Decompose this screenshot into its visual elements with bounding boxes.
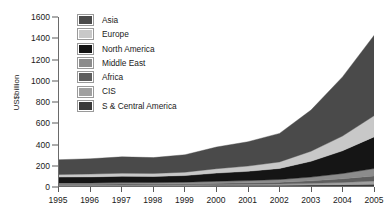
x-axis-tick-mark [153, 187, 154, 192]
x-axis-tick-mark [342, 187, 343, 192]
legend-item: Europe [78, 27, 177, 41]
y-axis-tick-label: 1000 [31, 76, 50, 86]
y-axis-tick-label: 1200 [31, 55, 50, 65]
legend-item-label: North America [102, 45, 155, 53]
x-axis-tick-label: 2001 [238, 195, 257, 205]
x-axis-tick-mark [184, 187, 185, 192]
legend-swatch-icon [78, 101, 93, 111]
legend-item: Middle East [78, 56, 177, 70]
x-axis-tick-mark [121, 187, 122, 192]
y-axis-tick-label: 400 [36, 140, 50, 150]
x-axis-tick-label: 2003 [301, 195, 320, 205]
legend-swatch-icon [78, 87, 93, 97]
x-axis-tick-mark [279, 187, 280, 192]
legend-item: North America [78, 42, 177, 56]
x-axis-tick-label: 1998 [143, 195, 162, 205]
x-axis-tick-mark [248, 187, 249, 192]
x-axis-tick-label: 1999 [175, 195, 194, 205]
x-axis-tick-mark [374, 187, 375, 192]
x-axis-tick-mark [216, 187, 217, 192]
chart-legend: AsiaEuropeNorth AmericaMiddle EastAfrica… [78, 13, 177, 113]
y-axis-tick-label: 800 [36, 97, 50, 107]
x-axis-tick-label: 1996 [80, 195, 99, 205]
y-axis-tick-label: 1400 [31, 33, 50, 43]
legend-swatch-icon [78, 72, 93, 82]
x-axis-ticks: 1995199619971998199920002001200220032004… [58, 187, 374, 219]
legend-item-label: CIS [102, 87, 116, 95]
legend-swatch-icon [78, 29, 93, 39]
y-axis-tick-label: 1600 [31, 12, 50, 22]
x-axis-tick-label: 2000 [207, 195, 226, 205]
legend-item: Africa [78, 70, 177, 84]
x-axis-tick-mark [58, 187, 59, 192]
legend-item-label: Asia [102, 16, 118, 24]
x-axis-tick-label: 2004 [333, 195, 352, 205]
x-axis-tick-label: 2002 [270, 195, 289, 205]
legend-item-label: Africa [102, 73, 123, 81]
legend-item-label: S & Central America [102, 102, 177, 110]
x-axis-tick-label: 1995 [49, 195, 68, 205]
y-axis-tick-label: 0 [45, 182, 50, 192]
stacked-area-chart: US$billion 02004006008001000120014001600… [0, 0, 389, 219]
x-axis-tick-label: 1997 [112, 195, 131, 205]
legend-swatch-icon [78, 44, 93, 54]
y-axis-tick-label: 600 [36, 118, 50, 128]
y-axis-tick-label: 200 [36, 161, 50, 171]
legend-item-label: Europe [102, 30, 129, 38]
x-axis-tick-label: 2005 [365, 195, 384, 205]
legend-item: S & Central America [78, 99, 177, 113]
legend-swatch-icon [78, 58, 93, 68]
legend-swatch-icon [78, 15, 93, 25]
legend-item: Asia [78, 13, 177, 27]
x-axis-tick-mark [311, 187, 312, 192]
legend-item-label: Middle East [102, 59, 145, 67]
x-axis-tick-mark [90, 187, 91, 192]
y-axis-ticks: 02004006008001000120014001600 [0, 0, 58, 219]
legend-item: CIS [78, 84, 177, 98]
